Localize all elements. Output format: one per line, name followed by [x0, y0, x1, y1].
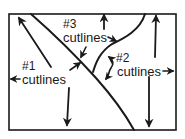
arrow-to-divider-icon: [70, 63, 80, 70]
label-2-text: cutlines: [117, 65, 161, 78]
arrow-down-left-icon: [67, 88, 69, 125]
arrow-to-divider-from-3-icon: [81, 47, 86, 57]
arrow-to-curve-icon: [108, 37, 116, 41]
double-arrow-icon: [106, 57, 113, 79]
label-1-text: cutlines: [22, 73, 66, 86]
arrow-up-right-icon: [155, 16, 156, 57]
label-3-text: cutlines: [63, 31, 107, 44]
